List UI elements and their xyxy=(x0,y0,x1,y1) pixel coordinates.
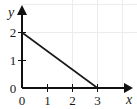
line-graph-figure: 0 1 2 3 0 1 2 y x xyxy=(0,0,137,109)
y-tick-label-0: 0 xyxy=(10,81,17,96)
x-tick-label-2: 2 xyxy=(69,93,76,108)
chart-canvas: 0 1 2 3 0 1 2 y x xyxy=(0,0,137,109)
x-axis-label: x xyxy=(125,92,133,107)
y-axis-label: y xyxy=(6,5,15,20)
x-tick-label-0: 0 xyxy=(19,93,26,108)
y-tick-label-2: 2 xyxy=(10,25,17,40)
x-tick-label-3: 3 xyxy=(94,93,101,108)
x-tick-label-1: 1 xyxy=(44,93,51,108)
y-tick-label-1: 1 xyxy=(10,53,17,68)
